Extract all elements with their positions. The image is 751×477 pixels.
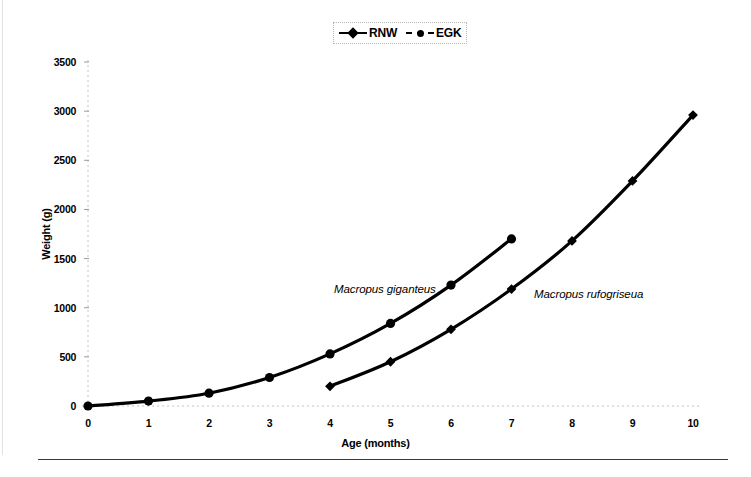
data-point-egk: [386, 319, 395, 328]
data-point-egk: [507, 234, 516, 243]
series-annotation-giganteus: Macropus giganteus: [334, 283, 436, 295]
y-axis-title: Weight (g): [40, 179, 52, 289]
data-point-egk: [204, 389, 213, 398]
series-annotation-rufogriseua: Macropus rufogriseua: [534, 288, 643, 300]
x-tick-label: 7: [499, 418, 525, 429]
y-tick-label: 1000: [34, 303, 76, 314]
y-tick-label: 3500: [34, 57, 76, 68]
x-tick-label: 3: [257, 418, 283, 429]
figure-container: RNW EGK 0500100015002000250030003500 012…: [0, 0, 751, 477]
chart-svg: [0, 0, 751, 477]
x-tick-label: 0: [75, 418, 101, 429]
x-tick-label: 10: [680, 418, 706, 429]
data-point-egk: [446, 281, 455, 290]
x-axis-title: Age (months): [0, 437, 751, 449]
y-tick-label: 3000: [34, 106, 76, 117]
data-point-egk: [265, 373, 274, 382]
data-point-egk: [83, 401, 92, 410]
data-point-egk: [144, 396, 153, 405]
x-tick-label: 4: [317, 418, 343, 429]
series-line-egk: [88, 239, 512, 406]
series-line-rnw: [330, 115, 693, 386]
data-point-rnw: [325, 381, 335, 391]
x-tick-label: 6: [438, 418, 464, 429]
x-tick-label: 2: [196, 418, 222, 429]
chart-plot-area: 0500100015002000250030003500 01234567891…: [0, 0, 751, 477]
x-tick-label: 9: [620, 418, 646, 429]
y-tick-label: 0: [34, 401, 76, 412]
x-tick-label: 1: [136, 418, 162, 429]
x-tick-label: 8: [559, 418, 585, 429]
y-tick-label: 2500: [34, 155, 76, 166]
x-tick-label: 5: [378, 418, 404, 429]
data-point-rnw: [386, 357, 396, 367]
y-tick-label: 500: [34, 352, 76, 363]
data-point-egk: [325, 349, 334, 358]
